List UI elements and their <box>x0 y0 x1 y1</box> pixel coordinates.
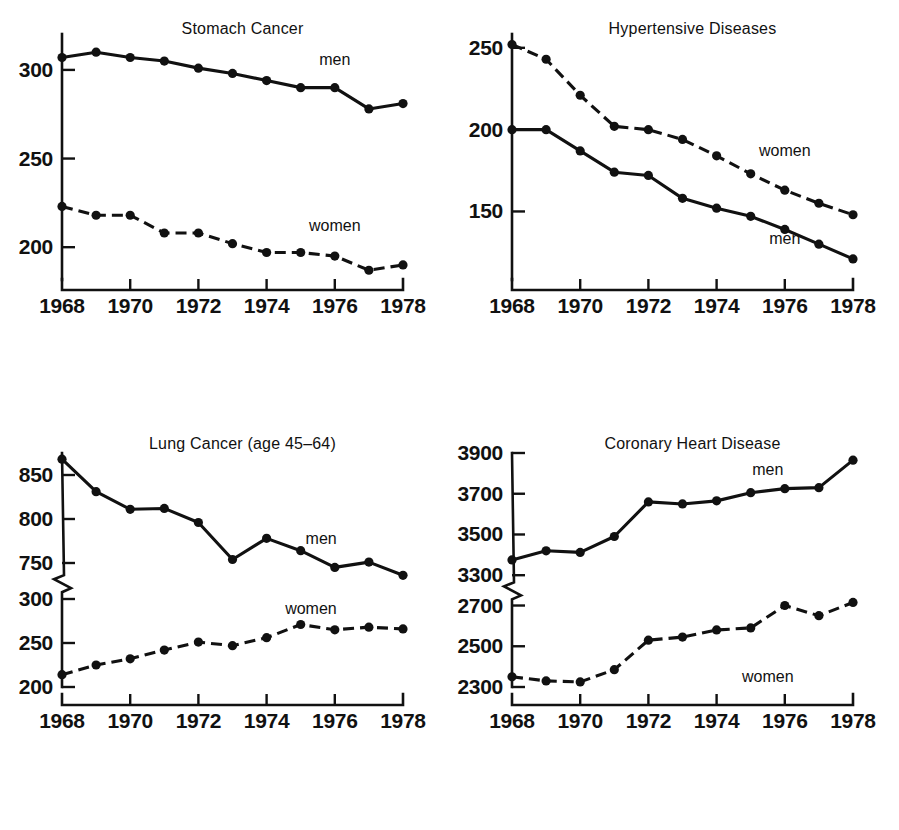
data-point-marker <box>364 623 373 632</box>
y-axis-spine-with-break <box>504 453 521 687</box>
figure-root: Stomach Cancer20025030019681970197219741… <box>0 0 899 830</box>
series-line-women <box>512 602 853 681</box>
data-point-marker <box>57 202 66 211</box>
data-point-marker <box>57 53 66 62</box>
series-line-men <box>62 52 403 109</box>
data-point-marker <box>330 251 339 260</box>
data-point-marker <box>746 169 755 178</box>
data-point-marker <box>848 210 857 219</box>
data-point-marker <box>194 638 203 647</box>
data-point-marker <box>610 122 619 131</box>
data-point-marker <box>126 505 135 514</box>
data-point-marker <box>780 186 789 195</box>
x-tick-label: 1972 <box>176 709 222 732</box>
data-point-marker <box>644 497 653 506</box>
data-point-marker <box>507 672 516 681</box>
x-tick-label: 1968 <box>489 294 535 317</box>
x-tick-label: 1978 <box>830 709 876 732</box>
y-tick-label: 300 <box>19 58 53 81</box>
data-point-marker <box>398 260 407 269</box>
data-point-marker <box>262 534 271 543</box>
x-tick-label: 1978 <box>380 709 426 732</box>
x-tick-label: 1976 <box>762 709 808 732</box>
series-label-men: men <box>306 530 337 547</box>
data-point-marker <box>126 654 135 663</box>
data-point-marker <box>228 555 237 564</box>
y-tick-label: 200 <box>19 675 53 698</box>
x-tick-label: 1968 <box>39 294 85 317</box>
data-point-marker <box>160 228 169 237</box>
y-tick-label: 750 <box>19 551 53 574</box>
x-tick-label: 1976 <box>762 294 808 317</box>
data-point-marker <box>330 563 339 572</box>
data-point-marker <box>262 633 271 642</box>
x-axis-rule <box>62 694 403 705</box>
data-point-marker <box>92 487 101 496</box>
series-line-women <box>512 45 853 215</box>
data-point-marker <box>507 40 516 49</box>
data-point-marker <box>814 199 823 208</box>
x-tick-label: 1972 <box>176 294 222 317</box>
data-point-marker <box>780 484 789 493</box>
chart-svg-coronary-heart-disease: Coronary Heart Disease230025002700330035… <box>450 415 899 830</box>
data-point-marker <box>92 48 101 57</box>
y-tick-label: 850 <box>19 463 53 486</box>
data-point-marker <box>678 499 687 508</box>
data-point-marker <box>160 56 169 65</box>
data-point-marker <box>330 625 339 634</box>
data-point-marker <box>576 91 585 100</box>
y-tick-label: 800 <box>19 507 53 530</box>
y-tick-label: 200 <box>19 235 53 258</box>
x-tick-label: 1978 <box>830 294 876 317</box>
data-point-marker <box>398 571 407 580</box>
x-tick-label: 1974 <box>244 709 290 732</box>
data-point-marker <box>262 76 271 85</box>
data-point-marker <box>57 670 66 679</box>
data-point-marker <box>194 518 203 527</box>
data-point-marker <box>610 665 619 674</box>
y-tick-label: 300 <box>19 587 53 610</box>
x-tick-label: 1970 <box>107 709 153 732</box>
data-point-marker <box>160 504 169 513</box>
data-point-marker <box>814 611 823 620</box>
chart-panel-lung-cancer: Lung Cancer (age 45–64)20025030075080085… <box>0 415 449 830</box>
data-point-marker <box>848 598 857 607</box>
data-point-marker <box>678 135 687 144</box>
x-tick-label: 1978 <box>380 294 426 317</box>
data-point-marker <box>542 546 551 555</box>
x-axis-rule <box>512 694 853 705</box>
series-label-men: men <box>319 51 350 68</box>
data-point-marker <box>228 239 237 248</box>
data-point-marker <box>542 55 551 64</box>
y-tick-label: 3300 <box>457 563 503 586</box>
data-point-marker <box>398 624 407 633</box>
data-point-marker <box>848 254 857 263</box>
data-point-marker <box>576 146 585 155</box>
y-tick-label: 250 <box>469 36 503 59</box>
x-tick-label: 1972 <box>626 294 672 317</box>
chart-svg-lung-cancer: Lung Cancer (age 45–64)20025030075080085… <box>0 415 449 830</box>
data-point-marker <box>364 266 373 275</box>
chart-title: Coronary Heart Disease <box>604 435 780 452</box>
data-point-marker <box>712 625 721 634</box>
data-point-marker <box>610 168 619 177</box>
data-point-marker <box>364 558 373 567</box>
data-point-marker <box>296 546 305 555</box>
data-point-marker <box>194 64 203 73</box>
y-tick-label: 250 <box>19 147 53 170</box>
data-point-marker <box>228 69 237 78</box>
data-point-marker <box>126 211 135 220</box>
series-label-women: women <box>741 668 794 685</box>
data-point-marker <box>746 488 755 497</box>
x-tick-label: 1974 <box>694 294 740 317</box>
data-point-marker <box>330 83 339 92</box>
x-tick-label: 1968 <box>489 709 535 732</box>
data-point-marker <box>678 194 687 203</box>
series-label-women: women <box>758 142 811 159</box>
chart-svg-stomach-cancer: Stomach Cancer20025030019681970197219741… <box>0 0 449 415</box>
data-point-marker <box>576 548 585 557</box>
chart-render-group: Lung Cancer (age 45–64)20025030075080085… <box>19 435 427 732</box>
x-tick-label: 1976 <box>312 294 358 317</box>
y-tick-label: 3500 <box>457 522 503 545</box>
x-tick-label: 1974 <box>244 294 290 317</box>
